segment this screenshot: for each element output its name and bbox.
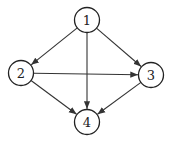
node-3: 3 (139, 63, 164, 88)
node-label: 3 (147, 68, 155, 83)
edge-3-to-4 (97, 82, 140, 114)
node-label: 1 (83, 13, 91, 28)
node-label: 2 (17, 66, 25, 81)
node-label: 4 (83, 115, 91, 130)
node-4: 4 (75, 110, 100, 135)
edges-group (31, 28, 141, 114)
nodes-group: 1234 (9, 8, 164, 135)
directed-graph: 1234 (0, 0, 173, 144)
node-1: 1 (75, 8, 100, 33)
edge-1-to-2 (31, 28, 77, 65)
edge-2-to-3 (33, 73, 138, 75)
edge-1-to-3 (96, 28, 141, 66)
edge-2-to-4 (31, 80, 77, 114)
node-2: 2 (9, 61, 34, 86)
